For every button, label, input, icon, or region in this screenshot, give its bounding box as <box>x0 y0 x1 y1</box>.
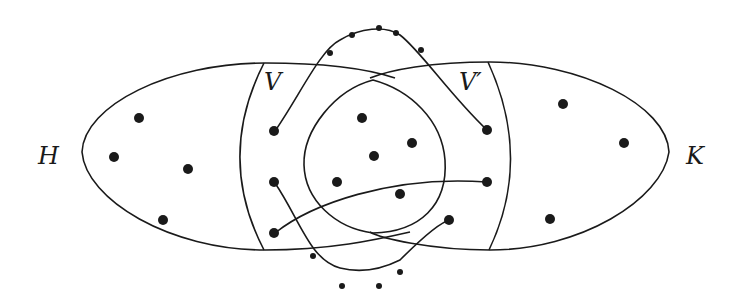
vertex <box>109 152 119 162</box>
path-bottom <box>275 183 450 270</box>
vertex <box>269 177 279 187</box>
vertex <box>619 138 629 148</box>
vertex <box>134 113 144 123</box>
vertex <box>357 113 367 123</box>
ellipse-K <box>370 62 669 250</box>
path-vertex <box>349 32 355 38</box>
boundary-V-prime <box>488 62 511 250</box>
graph-diagram: H K V V′ <box>0 0 746 305</box>
path-vertex <box>393 30 399 36</box>
path-vertex <box>327 50 333 56</box>
label-H: H <box>38 144 59 168</box>
diagram-drawing <box>0 0 746 305</box>
path-vertex <box>376 25 382 31</box>
ellipse-H <box>82 63 410 250</box>
vertex <box>269 228 279 238</box>
boundary-V <box>240 63 264 250</box>
vertex <box>545 214 555 224</box>
label-V: V <box>264 70 281 94</box>
vertex <box>407 138 417 148</box>
vertex <box>158 215 168 225</box>
vertex <box>395 189 405 199</box>
vertex <box>183 164 193 174</box>
vertex <box>482 125 492 135</box>
vertex <box>332 177 342 187</box>
path-top <box>275 29 487 131</box>
vertex <box>444 215 454 225</box>
vertex <box>269 126 279 136</box>
vertex <box>482 177 492 187</box>
path-vertex <box>310 253 316 259</box>
vertex <box>369 151 379 161</box>
label-K: K <box>686 144 704 168</box>
path-vertex <box>339 283 345 289</box>
path-vertex <box>418 47 424 53</box>
path-vertex <box>376 283 382 289</box>
label-V-prime: V′ <box>459 70 482 94</box>
vertex <box>558 99 568 109</box>
path-vertex <box>397 269 403 275</box>
path-cross <box>275 181 487 233</box>
